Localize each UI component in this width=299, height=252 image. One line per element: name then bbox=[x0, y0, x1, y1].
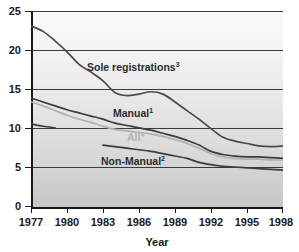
y-tick-label: 5 bbox=[15, 161, 21, 173]
y-tick-label: 10 bbox=[9, 122, 21, 134]
x-axis-title: Year bbox=[145, 236, 169, 248]
x-tick-label: 1998 bbox=[269, 216, 293, 228]
series-label-manual: Manual1 bbox=[113, 107, 153, 119]
series-label-non-manual: Non-Manual2 bbox=[101, 155, 165, 167]
x-tick-label: 1989 bbox=[163, 216, 187, 228]
y-tick-label: 25 bbox=[9, 5, 21, 17]
series-label-sole-registrations: Sole registrations3 bbox=[87, 61, 180, 73]
y-tick-label: 15 bbox=[9, 83, 21, 95]
footnote-marker: 1 bbox=[149, 107, 153, 114]
x-tick-label: 1983 bbox=[91, 216, 115, 228]
footnote-marker: 2 bbox=[161, 155, 165, 162]
footnote-marker: 3 bbox=[176, 61, 180, 68]
x-tick-label: 1980 bbox=[55, 216, 79, 228]
x-tick-label: 1977 bbox=[19, 216, 43, 228]
line-chart: 25 20 15 10 5 0 1977 1980 1983 1986 1989… bbox=[0, 0, 299, 252]
x-tick-label: 1995 bbox=[235, 216, 259, 228]
x-tick-label: 1992 bbox=[199, 216, 223, 228]
y-tick-label: 20 bbox=[9, 44, 21, 56]
footnote-marker: 4 bbox=[140, 131, 144, 138]
y-tick-marks bbox=[25, 12, 31, 207]
x-tick-label: 1986 bbox=[127, 216, 151, 228]
plot-background bbox=[31, 11, 283, 207]
x-tick-labels: 1977 1980 1983 1986 1989 1992 1995 1998 bbox=[19, 216, 293, 228]
chart-canvas: 25 20 15 10 5 0 1977 1980 1983 1986 1989… bbox=[0, 0, 299, 252]
y-tick-labels: 25 20 15 10 5 0 bbox=[9, 5, 21, 212]
y-tick-label: 0 bbox=[15, 200, 21, 212]
